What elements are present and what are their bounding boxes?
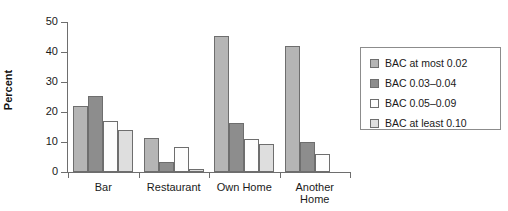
y-axis-tick [61, 112, 67, 113]
y-axis-tick-label: 30 [10, 76, 58, 86]
x-axis-tick [139, 172, 140, 178]
bar [174, 147, 189, 173]
bar [189, 169, 204, 172]
x-axis-label: Bar [68, 181, 139, 193]
x-axis-tick [280, 172, 281, 178]
y-axis-tick [61, 172, 67, 173]
x-axis-label: Own Home [209, 181, 280, 193]
y-axis-tick [61, 22, 67, 23]
bar [88, 96, 103, 173]
bar [144, 138, 159, 173]
legend-item-label: BAC 0.05–0.09 [385, 98, 456, 109]
y-axis-tick-label: 40 [10, 46, 58, 56]
bar [103, 121, 118, 172]
bar [229, 123, 244, 173]
bar [159, 162, 174, 173]
y-axis-tick [61, 142, 67, 143]
bar [300, 142, 315, 172]
legend-swatch-icon [370, 79, 379, 88]
bar [244, 139, 259, 172]
legend-swatch-icon [370, 59, 379, 68]
legend-item-label: BAC at most 0.02 [385, 58, 467, 69]
legend-item: BAC 0.03–0.04 [370, 75, 500, 92]
bar [118, 130, 133, 172]
y-axis-tick-label: 10 [10, 136, 58, 146]
bar [73, 106, 88, 172]
legend-item: BAC at most 0.02 [370, 55, 500, 72]
x-axis-label: Another Home [280, 181, 351, 205]
x-axis-tick [350, 172, 351, 178]
chart-figure: Percent 01020304050 BarRestaurantOwn Hom… [0, 0, 508, 211]
bar [259, 144, 274, 173]
legend-item: BAC 0.05–0.09 [370, 95, 500, 112]
x-axis-tick [68, 172, 69, 178]
legend-swatch-icon [370, 99, 379, 108]
y-axis-tick [61, 82, 67, 83]
x-axis-tick [209, 172, 210, 178]
legend-item: BAC at least 0.10 [370, 115, 500, 132]
y-axis-tick-label: 50 [10, 16, 58, 26]
bar [285, 46, 300, 172]
legend-item-label: BAC 0.03–0.04 [385, 78, 456, 89]
chart-legend: BAC at most 0.02BAC 0.03–0.04BAC 0.05–0.… [360, 47, 501, 130]
legend-item-label: BAC at least 0.10 [385, 118, 467, 129]
y-axis-tick-label: 0 [10, 166, 58, 176]
x-axis-label: Restaurant [139, 181, 210, 193]
legend-swatch-icon [370, 119, 379, 128]
bar [315, 154, 330, 172]
y-axis-tick-label: 20 [10, 106, 58, 116]
plot-area [68, 22, 350, 172]
y-axis-tick [61, 52, 67, 53]
bar [214, 36, 229, 173]
